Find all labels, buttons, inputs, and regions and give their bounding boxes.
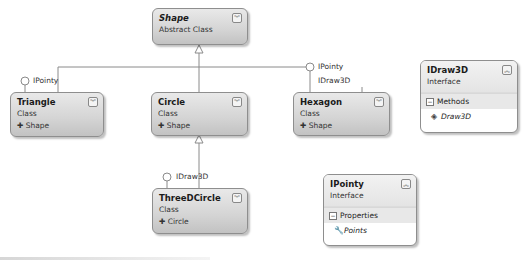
shape-class-box[interactable]: Shape Abstract Class ︾ [152, 8, 248, 45]
ipointy-interface-box[interactable]: IPointy Interface −Properties 🔧Points ︽ [323, 174, 417, 246]
class-kind: Class [300, 109, 383, 118]
lollipop-label: IDraw3D [176, 172, 208, 181]
expand-chevron-icon[interactable]: ︾ [232, 97, 242, 107]
lollipop-label: IPointy [318, 62, 343, 71]
idraw3d-interface-box[interactable]: IDraw3D Interface −Methods ◈Draw3D ︽ [420, 60, 518, 133]
collapse-section-icon[interactable]: − [426, 98, 434, 106]
base-class: ✚ Shape [300, 121, 383, 130]
collapse-chevron-icon[interactable]: ︽ [401, 179, 411, 189]
base-class: ✚ Circle [159, 217, 241, 226]
class-name: ThreeDCircle [159, 193, 241, 203]
expand-chevron-icon[interactable]: ︾ [374, 97, 384, 107]
method-icon: ◈ [431, 112, 437, 121]
threedcircle-class-box[interactable]: ThreeDCircle Class ✚ Circle ︾ [152, 188, 248, 234]
properties-section[interactable]: −Properties [324, 207, 416, 223]
class-kind: Class [17, 109, 97, 118]
property-wrench-icon: 🔧 [334, 226, 344, 235]
interface-name: IDraw3D [427, 65, 511, 75]
class-name: Shape [159, 13, 241, 23]
class-kind: Abstract Class [159, 25, 241, 34]
class-kind: Class [159, 205, 241, 214]
lollipop-label: IDraw3D [318, 76, 350, 85]
interface-name: IPointy [330, 179, 410, 189]
method-item[interactable]: ◈Draw3D [421, 109, 517, 125]
base-class: ✚ Shape [17, 121, 97, 130]
horizontal-scrollbar[interactable] [0, 257, 210, 260]
expand-chevron-icon[interactable]: ︾ [88, 97, 98, 107]
class-name: Hexagon [300, 97, 383, 107]
expand-chevron-icon[interactable]: ︾ [232, 13, 242, 23]
expand-chevron-icon[interactable]: ︾ [232, 193, 242, 203]
class-name: Triangle [17, 97, 97, 107]
collapse-section-icon[interactable]: − [329, 212, 337, 220]
methods-section[interactable]: −Methods [421, 93, 517, 109]
base-class: ✚ Shape [158, 121, 241, 130]
interface-kind: Interface [330, 191, 410, 200]
interface-kind: Interface [427, 77, 511, 86]
lollipop-label: IPointy [33, 76, 58, 85]
property-item[interactable]: 🔧Points [324, 223, 416, 239]
hexagon-class-box[interactable]: Hexagon Class ✚ Shape ︾ [293, 92, 390, 136]
circle-class-box[interactable]: Circle Class ✚ Shape ︾ [151, 92, 248, 136]
triangle-class-box[interactable]: Triangle Class ✚ Shape ︾ [10, 92, 104, 137]
collapse-chevron-icon[interactable]: ︽ [502, 65, 512, 75]
class-kind: Class [158, 109, 241, 118]
class-name: Circle [158, 97, 241, 107]
